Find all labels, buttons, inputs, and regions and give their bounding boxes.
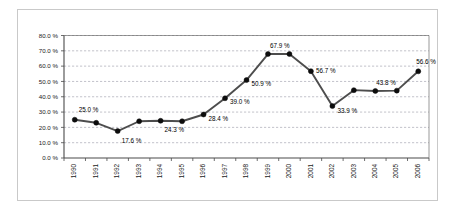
data-point-label: 24.3 %: [165, 126, 185, 133]
x-axis-tick-label: 2006: [414, 164, 421, 179]
x-axis-tick-label: 1994: [156, 164, 163, 179]
data-point-label: 50.9 %: [252, 80, 272, 87]
data-point-label: 56.6 %: [416, 58, 436, 65]
y-axis-tick-label: 60.0 %: [39, 62, 59, 69]
data-point-marker: [265, 52, 270, 57]
series-polyline: [75, 54, 419, 131]
y-axis-tick-label: 70.0 %: [39, 47, 59, 54]
data-point-marker: [351, 88, 356, 93]
data-point-marker: [373, 88, 378, 93]
x-axis-tick-label: 2005: [392, 164, 399, 179]
y-axis-tick-label: 80.0 %: [39, 32, 59, 39]
y-axis-tick-label: 20.0 %: [39, 124, 59, 131]
y-axis-tick-label: 50.0 %: [39, 78, 59, 85]
data-point-label: 56.7 %: [316, 67, 336, 74]
data-series-markers: [72, 52, 421, 134]
data-point-label: 43.8 %: [376, 79, 396, 86]
x-axis-tick-label: 2003: [350, 164, 357, 179]
data-point-marker: [330, 104, 335, 109]
data-point-label: 67.9 %: [270, 42, 290, 49]
data-point-marker: [244, 78, 249, 83]
x-axis-tick-labels: 1990199119921993199419951996199719981999…: [70, 164, 421, 179]
x-axis-tick-label: 2001: [307, 164, 314, 179]
x-axis-tick-label: 2000: [285, 164, 292, 179]
x-axis-tick-label: 1998: [242, 164, 249, 179]
data-series-line: [75, 54, 419, 131]
data-point-marker: [223, 96, 228, 101]
data-point-label: 17.6 %: [122, 137, 142, 144]
x-axis-tick-label: 1997: [221, 164, 228, 179]
data-point-marker: [201, 112, 206, 117]
x-axis-tick-label: 1990: [70, 164, 77, 179]
data-point-marker: [137, 119, 142, 124]
y-axis-tick-label: 30.0 %: [39, 108, 59, 115]
x-axis-tick-label: 1993: [135, 164, 142, 179]
data-point-marker: [394, 88, 399, 93]
x-axis-tick-label: 1991: [92, 164, 99, 179]
line-chart: 0.0 %10.0 %20.0 %30.0 %40.0 %50.0 %60.0 …: [0, 0, 455, 220]
chart-figure: 0.0 %10.0 %20.0 %30.0 %40.0 %50.0 %60.0 …: [0, 0, 455, 220]
data-point-label: 39.0 %: [230, 98, 250, 105]
data-point-marker: [72, 117, 77, 122]
x-axis-tick-label: 1992: [113, 164, 120, 179]
data-point-label: 28.4 %: [209, 115, 229, 122]
data-point-marker: [94, 120, 99, 125]
data-point-labels: 25.0 %17.6 %24.3 %28.4 %39.0 %50.9 %67.9…: [79, 42, 437, 144]
data-point-marker: [308, 69, 313, 74]
data-point-marker: [287, 52, 292, 57]
data-point-label: 33.9 %: [337, 107, 357, 114]
y-axis-tick-label: 40.0 %: [39, 93, 59, 100]
data-point-label: 25.0 %: [79, 106, 99, 113]
x-axis-tick-label: 1996: [199, 164, 206, 179]
chart-canvas: 0.0 %10.0 %20.0 %30.0 %40.0 %50.0 %60.0 …: [0, 0, 455, 220]
y-axis-tick-label: 0.0 %: [42, 154, 58, 161]
x-axis-tick-label: 1999: [264, 164, 271, 179]
plot-area-border: [64, 36, 429, 159]
x-axis-tick-label: 1995: [178, 164, 185, 179]
data-point-marker: [180, 119, 185, 124]
data-point-marker: [416, 69, 421, 74]
y-axis-tick-label: 10.0 %: [39, 139, 59, 146]
data-point-marker: [115, 129, 120, 134]
x-axis-tick-label: 2004: [371, 164, 378, 179]
data-point-marker: [158, 118, 163, 123]
y-axis-tick-labels: 0.0 %10.0 %20.0 %30.0 %40.0 %50.0 %60.0 …: [39, 32, 64, 162]
x-axis-tick-label: 2002: [328, 164, 335, 179]
